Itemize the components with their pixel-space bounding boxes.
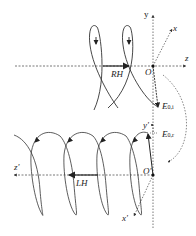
- field-subscript: 0,i: [168, 104, 174, 110]
- bottom-panel: [14, 124, 158, 228]
- helix-loop: [89, 26, 118, 110]
- helix-loop: [14, 132, 74, 215]
- field-subscript: 0,r: [168, 132, 175, 138]
- top-panel: [15, 15, 186, 132]
- origin-prime-dot: [151, 173, 154, 176]
- y-prime-axis-label: y': [143, 121, 149, 130]
- reflected-field-label: E0,r: [162, 130, 174, 139]
- origin-label: O: [145, 68, 152, 77]
- incident-field-label: E0,i: [162, 102, 174, 111]
- helix-loop: [64, 132, 106, 215]
- z-prime-axis-label: z': [14, 163, 19, 172]
- x-axis: [153, 29, 172, 66]
- x-axis-label: x: [173, 24, 177, 33]
- origin-prime-label: O': [143, 167, 151, 176]
- incident-field-arrow: [153, 66, 158, 107]
- x-prime-axis: [134, 175, 153, 216]
- lh-label: LH: [76, 179, 88, 188]
- rh-label: RH: [111, 70, 123, 79]
- x-prime-axis-label: x': [122, 214, 128, 223]
- reflection-arrow: [163, 75, 187, 162]
- y-prime-tip: [151, 124, 153, 126]
- helix-loop: [97, 132, 139, 215]
- y-axis-label: y: [144, 10, 149, 19]
- z-axis-label: z: [185, 54, 189, 63]
- diagram-canvas: [0, 0, 196, 236]
